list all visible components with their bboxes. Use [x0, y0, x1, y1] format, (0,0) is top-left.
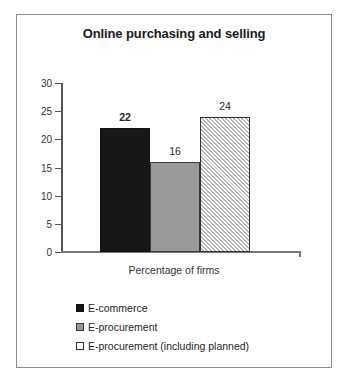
- y-tick-label: 25: [28, 106, 52, 117]
- y-tick-label: 30: [28, 78, 52, 89]
- bar-value-label: 16: [150, 145, 200, 157]
- y-tick-mark: [55, 111, 61, 112]
- chart-title: Online purchasing and selling: [0, 26, 348, 41]
- legend-swatch-icon: [76, 304, 84, 312]
- y-tick-label: 5: [28, 218, 52, 229]
- bar-1: [100, 128, 150, 252]
- y-tick-mark: [55, 196, 61, 197]
- y-tick-label: 0: [28, 247, 52, 258]
- y-tick-label: 10: [28, 190, 52, 201]
- legend-item-1[interactable]: E-commerce: [76, 298, 316, 317]
- chart-legend: E-commerceE-procurementE-procurement (in…: [76, 298, 316, 355]
- x-axis-label: Percentage of firms: [0, 264, 348, 276]
- bar-2: [150, 162, 200, 252]
- y-tick-label: 15: [28, 162, 52, 173]
- legend-item-3[interactable]: E-procurement (including planned): [76, 336, 316, 355]
- y-tick-mark: [55, 252, 61, 253]
- y-tick-mark: [55, 139, 61, 140]
- chart-figure: Online purchasing and selling 0510152025…: [0, 0, 348, 384]
- y-tick-mark: [55, 224, 61, 225]
- plot-area: [62, 83, 302, 252]
- bar-value-label: 24: [200, 100, 250, 112]
- legend-item-label: E-commerce: [88, 302, 148, 314]
- bar-3: [200, 117, 250, 252]
- legend-item-label: E-procurement: [88, 321, 157, 333]
- legend-item-2[interactable]: E-procurement: [76, 317, 316, 336]
- legend-swatch-icon: [76, 342, 84, 350]
- y-tick-label: 20: [28, 134, 52, 145]
- legend-item-label: E-procurement (including planned): [88, 340, 249, 352]
- y-tick-mark: [55, 168, 61, 169]
- legend-swatch-icon: [76, 323, 84, 331]
- y-tick-mark: [55, 83, 61, 84]
- bar-value-label: 22: [100, 111, 150, 123]
